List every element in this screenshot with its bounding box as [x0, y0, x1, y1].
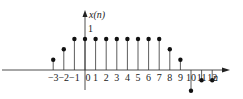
stem-dot — [104, 37, 108, 41]
x-tick-label: 5 — [136, 72, 141, 83]
y-axis-label: x(n) — [88, 9, 106, 21]
x-tick-label: 12 — [207, 72, 217, 83]
x-tick-label: 2 — [104, 72, 109, 83]
x-tick-label: 8 — [167, 72, 172, 83]
stem-dot — [115, 37, 119, 41]
x-tick-label: 10 — [186, 72, 196, 83]
x-tick-label: 11 — [197, 72, 207, 83]
stem-dot — [83, 37, 87, 41]
stems — [51, 37, 214, 93]
stem-dot — [168, 47, 172, 51]
stem-dot — [51, 58, 55, 62]
stem-dot — [146, 37, 150, 41]
x-tick-labels: −3−2−10123456789101112 — [48, 72, 217, 83]
x-tick-label: −2 — [58, 72, 69, 83]
x-tick-label: 0 — [86, 72, 91, 83]
stem-dot — [189, 89, 193, 93]
x-tick-label: 7 — [157, 72, 162, 83]
x-tick-label: 9 — [178, 72, 183, 83]
x-tick-label: −1 — [69, 72, 80, 83]
x-tick-label: −3 — [48, 72, 59, 83]
y-axis-arrow-icon — [83, 10, 88, 17]
stem-dot — [93, 37, 97, 41]
stem-dot — [125, 37, 129, 41]
stem-dot — [157, 37, 161, 41]
x-tick-label: 1 — [93, 72, 98, 83]
x-tick-label: 3 — [114, 72, 119, 83]
stem-dot — [178, 58, 182, 62]
y-tick-label: 1 — [88, 23, 93, 34]
x-axis-arrow-icon — [222, 68, 230, 73]
stem-dot — [72, 37, 76, 41]
x-tick-label: 4 — [125, 72, 130, 83]
x-tick-label: 6 — [146, 72, 151, 83]
stem-dot — [62, 47, 66, 51]
stem-dot — [136, 37, 140, 41]
stem-plot: x(n) 1 n −3−2−10123456789101112 — [0, 0, 243, 99]
